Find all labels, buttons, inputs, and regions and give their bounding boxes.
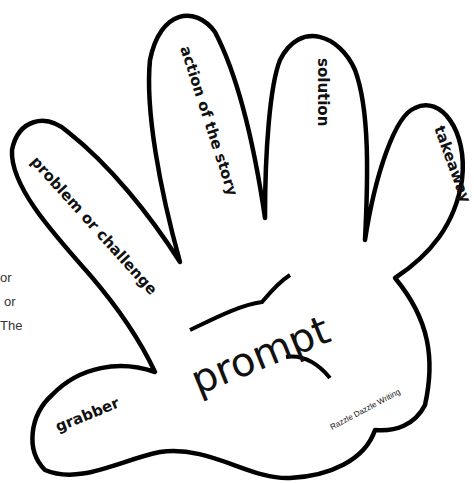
hand-diagram: grabber problem or challenge action of t… — [0, 0, 474, 483]
ring-finger-label: solution — [314, 58, 332, 126]
side-text-fragment: or — [0, 268, 12, 288]
hand-outline-svg: grabber problem or challenge action of t… — [0, 0, 474, 483]
side-text-fragment: or — [4, 292, 16, 312]
side-text-fragment: The — [0, 316, 22, 336]
